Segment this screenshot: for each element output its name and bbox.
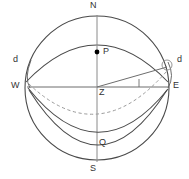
label-east: E — [173, 81, 179, 90]
label-north: N — [90, 1, 97, 10]
sight-line — [97, 67, 167, 87]
label-pole-p: P — [103, 47, 109, 56]
celestial-sphere-svg — [0, 0, 189, 179]
label-south: S — [90, 164, 96, 173]
diurnal-circle-solid-lower — [29, 90, 167, 145]
star-marker-circle — [162, 60, 172, 70]
celestial-sphere-diagram: N S W E P Z Q d d — [0, 0, 189, 179]
label-west: W — [11, 81, 20, 90]
label-declination-right: d — [177, 55, 182, 64]
diurnal-circle-solid-upper — [28, 88, 168, 132]
pole-point-dot — [95, 50, 100, 55]
label-center-z: Z — [99, 88, 105, 97]
declination-arc-left — [27, 60, 31, 88]
label-declination-left: d — [13, 55, 18, 64]
label-q: Q — [99, 138, 106, 147]
